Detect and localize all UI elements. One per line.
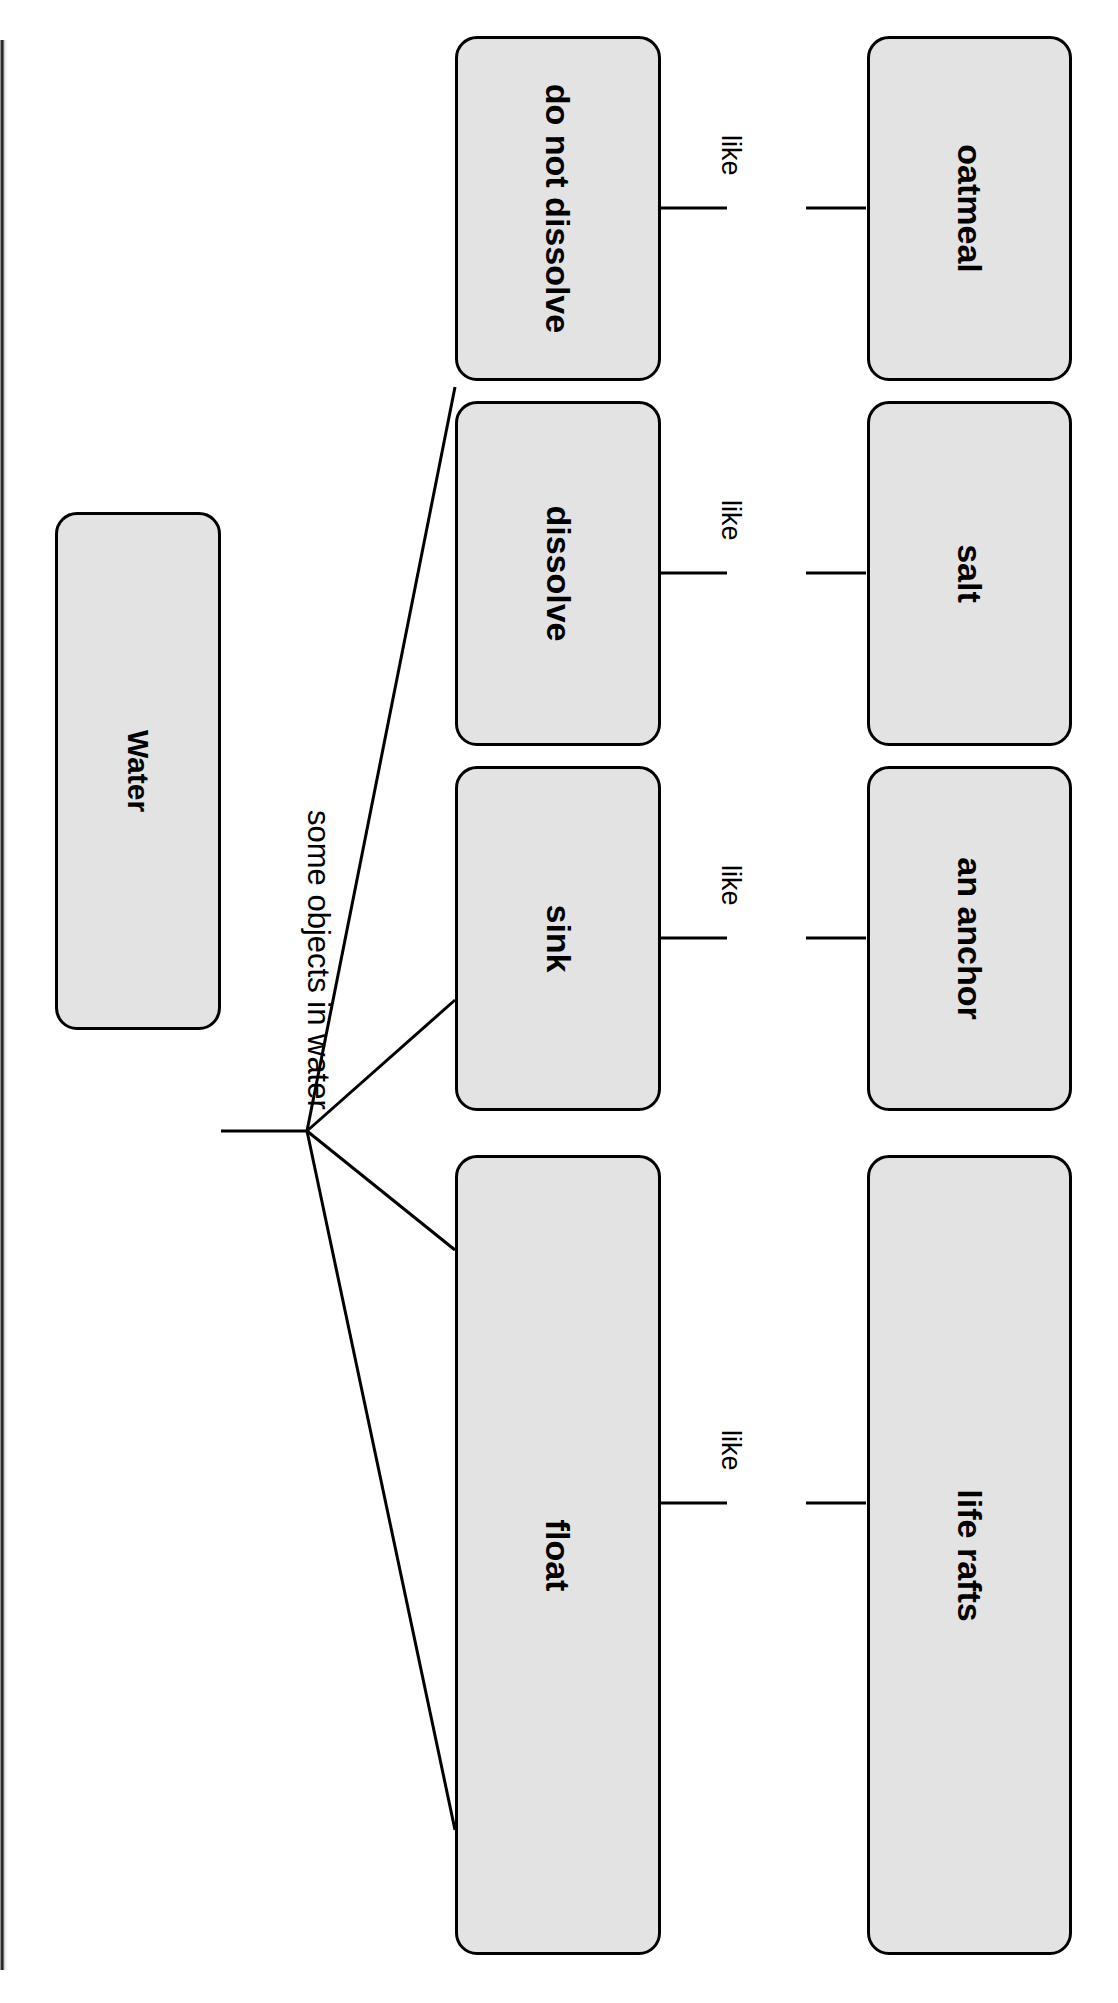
node-do-not-dissolve-label: do not dissolve: [539, 84, 578, 333]
node-dissolve-label: dissolve: [538, 505, 577, 641]
node-sink[interactable]: sink: [455, 766, 661, 1111]
node-float[interactable]: float: [455, 1155, 661, 1955]
node-an-anchor-label: an anchor: [950, 857, 989, 1019]
edge-label-like-1: like: [715, 135, 746, 176]
edge-label-like-4: like: [715, 1430, 746, 1471]
edge-label-root: some objects in water: [300, 810, 336, 1110]
edge-label-like-2: like: [715, 500, 746, 541]
node-sink-label: sink: [538, 904, 577, 972]
node-float-label: float: [539, 1519, 578, 1591]
node-dissolve[interactable]: dissolve: [455, 401, 661, 746]
node-water-label: Water: [121, 730, 155, 812]
edge-label-like-3: like: [715, 865, 746, 906]
node-life-rafts[interactable]: life rafts: [867, 1155, 1072, 1955]
node-water[interactable]: Water: [55, 512, 221, 1030]
node-salt[interactable]: salt: [867, 401, 1072, 746]
node-do-not-dissolve[interactable]: do not dissolve: [455, 36, 661, 381]
concept-map-page: Water some objects in water do not disso…: [0, 0, 1118, 2003]
node-salt-label: salt: [950, 544, 989, 603]
node-an-anchor[interactable]: an anchor: [867, 766, 1072, 1111]
node-life-rafts-label: life rafts: [950, 1489, 989, 1621]
node-oatmeal-label: oatmeal: [950, 144, 989, 273]
node-oatmeal[interactable]: oatmeal: [867, 36, 1072, 381]
